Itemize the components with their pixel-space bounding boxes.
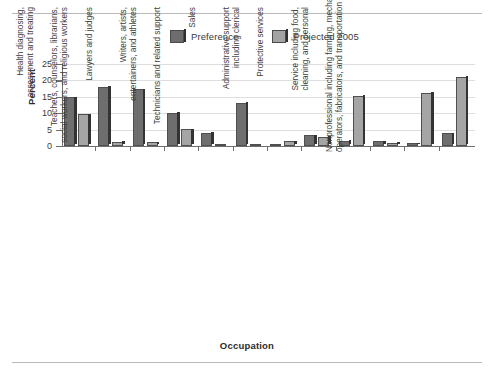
x-axis-group-tickmark bbox=[267, 146, 268, 151]
category-label-line: including clerical bbox=[232, 7, 242, 152]
x-axis-group-tickmark bbox=[95, 146, 96, 151]
x-axis-category-label: Health diagnosing,assessment and treatin… bbox=[16, 7, 35, 152]
x-axis-category-label: Sales bbox=[188, 7, 198, 152]
category-label-line: Administrative support bbox=[222, 7, 232, 152]
bar-preference bbox=[270, 144, 281, 146]
bar-preference bbox=[167, 113, 178, 146]
x-axis-category-label: Technicians and related support bbox=[153, 7, 163, 152]
x-axis-category-label: Service including food,cleaning, and per… bbox=[291, 7, 310, 152]
category-label-line: social workers, and religious workers bbox=[60, 7, 70, 152]
category-label-line: Service including food, bbox=[291, 7, 301, 152]
bar-projected-2005 bbox=[456, 77, 467, 146]
category-label-line: Nonprofessional including farming, mecha… bbox=[325, 7, 335, 152]
bar-preference bbox=[407, 143, 418, 146]
bar-projected-2005 bbox=[421, 93, 432, 146]
category-label-line: Writers, artists, bbox=[119, 7, 129, 152]
category-label-line: entertainers, and athletes bbox=[129, 7, 139, 152]
legend-item-projected-2005: Projected 2005 bbox=[272, 30, 358, 43]
bottom-divider-rule bbox=[12, 362, 482, 363]
x-axis-category-label: Administrative supportincluding clerical bbox=[222, 7, 241, 152]
x-axis-group-tickmark bbox=[370, 146, 371, 151]
category-label-line: assessment and treating bbox=[26, 7, 36, 152]
category-label-line: cleaning, and personal bbox=[300, 7, 310, 152]
bar-preference bbox=[442, 133, 453, 146]
light-gray-swatch-icon bbox=[272, 30, 286, 43]
category-label-line: Health diagnosing, bbox=[16, 7, 26, 152]
category-label-line: Protective services bbox=[256, 7, 266, 152]
bar-group bbox=[406, 64, 440, 146]
dark-gray-swatch-icon bbox=[170, 30, 184, 43]
top-divider-rule bbox=[12, 13, 482, 14]
x-axis-category-labels: Executive, administrative,managerialEngi… bbox=[62, 152, 482, 302]
bar-projected-2005 bbox=[353, 96, 364, 146]
category-label-line: operators, fabricators, and transportati… bbox=[335, 7, 345, 152]
x-axis-title: Occupation bbox=[0, 340, 494, 351]
bar-preference bbox=[201, 133, 212, 146]
x-axis-category-label: Engineers, architects, naturaland social… bbox=[0, 7, 1, 152]
category-label-line: and social scientists bbox=[0, 7, 1, 152]
x-axis-category-label: Teachers, counselors, librarians,social … bbox=[50, 7, 69, 152]
category-label-line: Technicians and related support bbox=[153, 7, 163, 152]
x-axis-group-tickmark bbox=[164, 146, 165, 151]
bar-preference bbox=[98, 87, 109, 146]
x-axis-category-label: Lawyers and judges bbox=[85, 7, 95, 152]
bar-projected-2005 bbox=[387, 143, 398, 146]
x-axis-category-label: Nonprofessional including farming, mecha… bbox=[325, 7, 344, 152]
x-axis-group-tickmark bbox=[404, 146, 405, 151]
x-axis-category-label: Writers, artists,entertainers, and athle… bbox=[119, 7, 138, 152]
x-axis-group-tickmark bbox=[198, 146, 199, 151]
bar-chart-figure: Preference Projected 2005 Percent 0 5 10… bbox=[0, 0, 494, 378]
category-label-line: Teachers, counselors, librarians, bbox=[50, 7, 60, 152]
category-label-line: Sales bbox=[188, 7, 198, 152]
bar-group bbox=[441, 64, 475, 146]
bar-preference bbox=[373, 141, 384, 146]
x-axis-group-tickmark bbox=[439, 146, 440, 151]
x-axis-category-label: Protective services bbox=[256, 7, 266, 152]
bar-group bbox=[372, 64, 406, 146]
category-label-line: Lawyers and judges bbox=[85, 7, 95, 152]
